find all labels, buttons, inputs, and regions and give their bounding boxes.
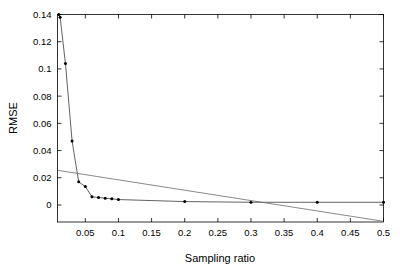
series-line-reference-line xyxy=(58,170,384,221)
y-tick-label: 0.14 xyxy=(33,9,52,20)
chart-svg: 00.020.040.060.080.10.120.14 0.050.10.15… xyxy=(0,0,403,272)
y-tick-label: 0.06 xyxy=(33,118,52,129)
series-line-rmse-curve xyxy=(59,15,384,203)
series-layer xyxy=(57,13,385,221)
data-point-marker xyxy=(117,198,120,201)
y-axis-tick-labels: 00.020.040.060.080.10.120.14 xyxy=(33,9,52,210)
plot-frame xyxy=(58,15,384,223)
x-tick-label: 0.4 xyxy=(311,227,324,238)
x-axis-tick-labels: 0.050.10.150.20.250.30.350.40.450.5 xyxy=(76,227,390,238)
data-point-marker xyxy=(382,201,385,204)
y-axis-ticks-right xyxy=(380,15,384,205)
data-point-marker xyxy=(57,13,60,16)
y-tick-label: 0.04 xyxy=(33,145,52,156)
data-point-marker xyxy=(71,140,74,143)
y-tick-label: 0.08 xyxy=(33,91,52,102)
data-point-marker xyxy=(97,196,100,199)
x-tick-label: 0.05 xyxy=(76,227,95,238)
y-tick-label: 0.1 xyxy=(38,63,51,74)
data-point-marker xyxy=(84,185,87,188)
data-point-marker xyxy=(183,200,186,203)
x-tick-label: 0.45 xyxy=(341,227,360,238)
chart-figure: 00.020.040.060.080.10.120.14 0.050.10.15… xyxy=(0,0,403,272)
data-point-marker xyxy=(77,180,80,183)
x-tick-label: 0.35 xyxy=(275,227,294,238)
y-axis-label: RMSE xyxy=(7,102,19,134)
x-tick-label: 0.25 xyxy=(209,227,228,238)
data-point-marker xyxy=(316,201,319,204)
data-point-marker xyxy=(249,201,252,204)
x-tick-label: 0.2 xyxy=(178,227,191,238)
x-axis-ticks xyxy=(85,218,383,222)
x-tick-label: 0.15 xyxy=(142,227,161,238)
x-tick-label: 0.5 xyxy=(377,227,390,238)
x-axis-ticks-top xyxy=(85,15,383,19)
y-axis-ticks xyxy=(58,15,62,205)
y-tick-label: 0.12 xyxy=(33,36,52,47)
data-point-marker xyxy=(90,195,93,198)
data-point-marker xyxy=(110,197,113,200)
x-tick-label: 0.1 xyxy=(112,227,125,238)
y-tick-label: 0.02 xyxy=(33,172,52,183)
x-tick-label: 0.3 xyxy=(244,227,257,238)
y-tick-label: 0 xyxy=(46,199,51,210)
data-point-marker xyxy=(104,197,107,200)
data-point-marker xyxy=(64,62,67,65)
data-point-marker xyxy=(59,16,62,19)
x-axis-label: Sampling ratio xyxy=(185,252,255,264)
